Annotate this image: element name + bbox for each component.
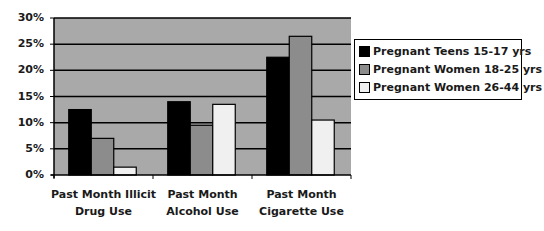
legend-label: Pregnant Women 26-44 yrs <box>373 81 542 94</box>
legend-label: Pregnant Women 18-25 yrs <box>373 63 542 76</box>
legend: Pregnant Teens 15-17 yrs Pregnant Women … <box>354 39 522 100</box>
bar <box>267 57 290 175</box>
bar <box>114 167 137 175</box>
legend-swatch-black <box>359 46 370 57</box>
y-tick-label: 0% <box>4 168 44 181</box>
legend-item-teens: Pregnant Teens 15-17 yrs <box>359 45 531 58</box>
bar <box>312 120 335 175</box>
legend-item-women-26-44: Pregnant Women 26-44 yrs <box>359 81 542 94</box>
y-tick-label: 15% <box>4 90 44 103</box>
x-category-label: Past MonthAlcohol Use <box>148 186 258 220</box>
y-tick-label: 10% <box>4 116 44 129</box>
legend-swatch-gray <box>359 64 370 75</box>
legend-label: Pregnant Teens 15-17 yrs <box>373 45 531 58</box>
bar <box>289 36 312 175</box>
y-tick-label: 30% <box>4 11 44 24</box>
bar <box>213 104 236 175</box>
bar <box>168 102 191 175</box>
y-tick-label: 20% <box>4 63 44 76</box>
legend-item-women-18-25: Pregnant Women 18-25 yrs <box>359 63 542 76</box>
y-tick-label: 25% <box>4 37 44 50</box>
bar <box>190 125 213 175</box>
bar <box>69 110 92 175</box>
x-category-label: Past Month IllicitDrug Use <box>49 186 159 220</box>
bar <box>91 138 114 175</box>
legend-swatch-white <box>359 82 370 93</box>
bar-chart: 0%5%10%15%20%25%30% Past Month IllicitDr… <box>0 0 544 231</box>
x-category-label: Past MonthCigarette Use <box>247 186 357 220</box>
y-tick-label: 5% <box>4 142 44 155</box>
